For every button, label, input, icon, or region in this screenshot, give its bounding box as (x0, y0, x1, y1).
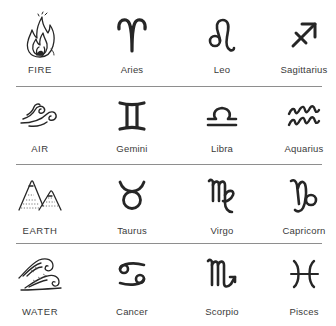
sign-sagittarius: Sagittarius (264, 10, 336, 75)
sign-label: Virgo (210, 225, 233, 236)
sign-taurus: Taurus (92, 174, 172, 236)
sign-label: Taurus (117, 225, 147, 236)
sign-libra: Libra (182, 96, 262, 154)
sign-gemini: Gemini (92, 96, 172, 154)
pisces-icon (274, 252, 334, 296)
leo-icon (192, 10, 252, 60)
divider (16, 164, 322, 165)
aries-icon (102, 10, 162, 60)
sign-label: Sagittarius (280, 64, 327, 75)
sign-aries: Aries (92, 10, 172, 75)
capricorn-icon (274, 174, 334, 216)
sign-aquarius: Aquarius (264, 96, 336, 154)
earth-icon (10, 174, 70, 216)
cancer-icon (102, 252, 162, 296)
air-icon (10, 96, 70, 136)
element-water: WATER (0, 252, 80, 317)
sign-label: Leo (214, 64, 230, 75)
sign-virgo: Virgo (182, 174, 262, 236)
sign-label: Aquarius (284, 143, 323, 154)
taurus-icon (102, 174, 162, 216)
sign-label: Scorpio (205, 306, 239, 317)
element-fire: FIRE (0, 10, 80, 75)
element-label: AIR (31, 143, 49, 154)
sagittarius-icon (274, 10, 334, 60)
gemini-icon (102, 96, 162, 136)
element-earth: EARTH (0, 174, 80, 236)
scorpio-icon (192, 252, 252, 296)
sign-label: Gemini (116, 143, 147, 154)
sign-cancer: Cancer (92, 252, 172, 317)
sign-label: Capricorn (283, 225, 326, 236)
element-label: WATER (22, 306, 58, 317)
sign-leo: Leo (182, 10, 262, 75)
aquarius-icon (274, 96, 334, 136)
fire-icon (10, 10, 70, 60)
sign-capricorn: Capricorn (264, 174, 336, 236)
libra-icon (192, 96, 252, 136)
sign-label: Cancer (116, 306, 148, 317)
sign-pisces: Pisces (264, 252, 336, 317)
element-air: AIR (0, 96, 80, 154)
sign-label: Aries (121, 64, 144, 75)
virgo-icon (192, 174, 252, 216)
sign-label: Libra (211, 143, 233, 154)
water-icon (10, 252, 70, 296)
sign-label: Pisces (289, 306, 318, 317)
element-label: EARTH (22, 225, 57, 236)
divider (16, 243, 322, 244)
sign-scorpio: Scorpio (182, 252, 262, 317)
divider (16, 86, 322, 87)
element-label: FIRE (28, 64, 52, 75)
